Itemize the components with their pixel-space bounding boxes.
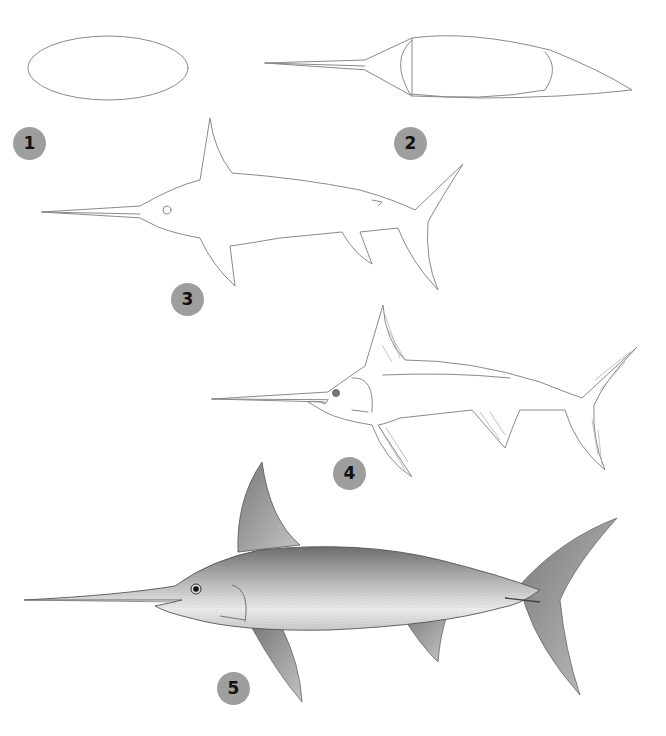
step-badge-1: 1: [13, 127, 46, 160]
step-5-drawing: [24, 462, 617, 702]
step-badge-2: 2: [394, 127, 427, 160]
step-number: 2: [405, 135, 417, 152]
drawing-canvas: 1 2 3 4 5: [0, 0, 666, 736]
step-1-sketch: [28, 36, 188, 100]
step-number: 1: [24, 135, 36, 152]
step-badge-3: 3: [171, 283, 204, 316]
step-badge-5: 5: [217, 672, 250, 705]
step-number: 3: [182, 291, 194, 308]
step-4-sketch: [212, 305, 637, 477]
step-badge-4: 4: [333, 457, 366, 490]
step-number: 4: [344, 465, 356, 482]
step-number: 5: [228, 680, 240, 697]
step-2-sketch: [265, 36, 632, 98]
